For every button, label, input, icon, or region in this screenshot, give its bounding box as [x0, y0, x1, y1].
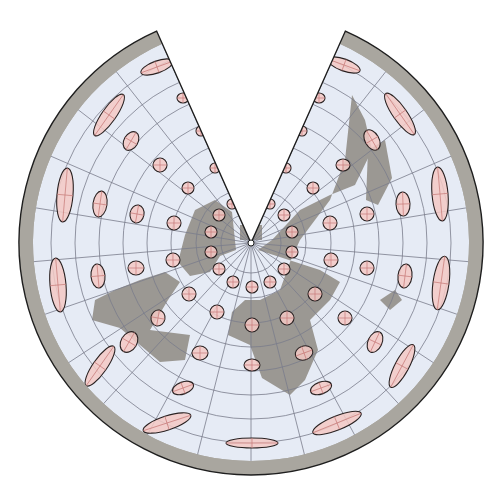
tissot-ellipse [182, 287, 196, 301]
tissot-ellipse [280, 311, 294, 325]
tissot-ellipse [308, 287, 322, 301]
tissot-ellipse [323, 216, 337, 230]
tissot-ellipse [192, 346, 208, 360]
tissot-ellipse [324, 253, 338, 267]
tissot-ellipse [286, 226, 298, 238]
tissot-ellipse [205, 226, 217, 238]
tissot-ellipse [307, 182, 319, 194]
conic-projection-map [0, 0, 500, 504]
tissot-ellipse [246, 281, 258, 293]
tissot-ellipse [213, 209, 225, 221]
tissot-ellipse [166, 253, 180, 267]
tissot-ellipse [210, 305, 224, 319]
tissot-ellipse [205, 246, 217, 258]
north-pole-marker [248, 240, 254, 246]
tissot-ellipse [167, 216, 181, 230]
tissot-ellipse [278, 263, 290, 275]
tissot-ellipse [227, 276, 239, 288]
tissot-ellipse [245, 318, 259, 332]
tissot-ellipse [264, 276, 276, 288]
tissot-ellipse [360, 207, 374, 221]
tissot-ellipse [153, 158, 167, 172]
tissot-ellipse [336, 159, 350, 171]
tissot-ellipse [360, 261, 374, 275]
tissot-ellipse [213, 263, 225, 275]
tissot-ellipse [396, 192, 411, 216]
tissot-ellipse [182, 182, 194, 194]
tissot-ellipse [128, 261, 144, 275]
tissot-ellipse [226, 438, 278, 448]
tissot-ellipse [338, 311, 352, 325]
tissot-ellipse [278, 209, 290, 221]
tissot-ellipse [286, 246, 298, 258]
tissot-ellipse [244, 359, 260, 371]
